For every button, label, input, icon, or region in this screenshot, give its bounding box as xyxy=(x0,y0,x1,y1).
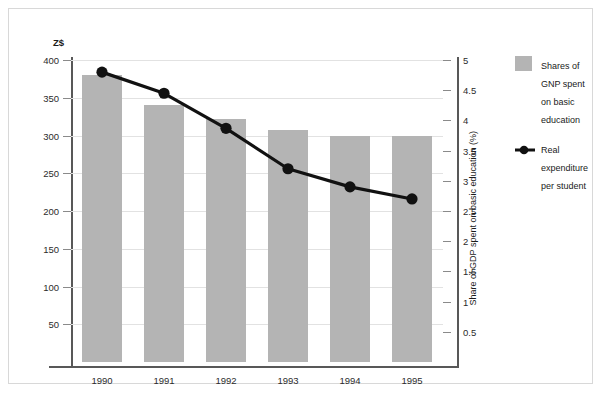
left-axis-tick xyxy=(63,324,71,325)
left-axis-tick xyxy=(63,287,71,288)
right-axis-tick-label: 3.5 xyxy=(463,145,476,156)
line-marker xyxy=(344,181,355,192)
x-axis-tick-label: 1994 xyxy=(339,375,360,386)
left-axis-tick-label: 400 xyxy=(43,55,59,66)
line-marker xyxy=(406,193,417,204)
x-axis-tick-label: 1995 xyxy=(401,375,422,386)
right-axis-tick xyxy=(443,181,451,182)
line-marker xyxy=(282,163,293,174)
left-axis-tick-label: 250 xyxy=(43,168,59,179)
right-axis-tick-label: 2.5 xyxy=(463,206,476,217)
x-axis-tick-label: 1991 xyxy=(153,375,174,386)
left-axis-unit-label: Z$ xyxy=(53,37,64,48)
right-axis-tick xyxy=(443,151,451,152)
legend-label-line: Real expenditure per student xyxy=(541,145,588,191)
left-axis-tick xyxy=(63,98,71,99)
left-axis-tick xyxy=(63,136,71,137)
line-marker xyxy=(220,123,231,134)
line-marker xyxy=(96,67,107,78)
x-axis-tick-label: 1993 xyxy=(277,375,298,386)
x-axis-line xyxy=(49,366,459,368)
left-axis-tick xyxy=(63,249,71,250)
right-axis-tick-label: 3 xyxy=(463,175,468,186)
chart-figure: Z$ Share of GDP spent on basic education… xyxy=(8,8,593,384)
right-axis-tick-label: 1.5 xyxy=(463,266,476,277)
right-axis-tick xyxy=(443,120,451,121)
line-path xyxy=(102,72,412,199)
legend-label-bars: Shares of GNP spent on basic education xyxy=(541,61,585,125)
right-axis-tick-label: 5 xyxy=(463,55,468,66)
right-axis-tick xyxy=(443,211,451,212)
right-axis-tick xyxy=(443,302,451,303)
line-marker xyxy=(158,88,169,99)
plot-area: 50100150200250300350400 0.511.522.533.54… xyxy=(71,51,443,362)
line-marker-icon xyxy=(515,141,535,151)
left-axis-tick-label: 150 xyxy=(43,243,59,254)
left-axis-tick-label: 300 xyxy=(43,130,59,141)
bar-swatch-icon xyxy=(515,56,532,71)
right-axis-tick-label: 4.5 xyxy=(463,85,476,96)
right-axis-tick-label: 4 xyxy=(463,115,468,126)
right-axis-title: Share of GDP spent on basic education (%… xyxy=(468,131,478,305)
right-axis-tick xyxy=(443,332,451,333)
left-axis-tick xyxy=(63,173,71,174)
right-axis-tick xyxy=(443,60,451,61)
legend-entry-line: Real expenditure per student xyxy=(515,139,593,193)
left-axis-tick xyxy=(63,60,71,61)
chart-legend: Shares of GNP spent on basic education R… xyxy=(515,55,593,205)
right-axis-tick xyxy=(443,271,451,272)
left-axis-tick xyxy=(63,211,71,212)
right-axis-tick xyxy=(443,241,451,242)
right-axis-line xyxy=(457,57,459,367)
legend-entry-bars: Shares of GNP spent on basic education xyxy=(515,55,593,127)
right-axis-tick-label: 2 xyxy=(463,236,468,247)
left-axis-tick-label: 50 xyxy=(48,319,59,330)
left-axis-tick-label: 200 xyxy=(43,206,59,217)
left-axis-tick-label: 350 xyxy=(43,92,59,103)
x-axis-tick-label: 1990 xyxy=(91,375,112,386)
x-axis-tick-label: 1992 xyxy=(215,375,236,386)
line-series xyxy=(71,51,443,362)
right-axis-tick-label: 0.5 xyxy=(463,326,476,337)
right-axis-tick-label: 1 xyxy=(463,296,468,307)
left-axis-tick-label: 100 xyxy=(43,281,59,292)
right-axis-tick xyxy=(443,90,451,91)
